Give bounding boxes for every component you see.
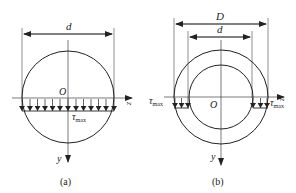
y-axis-label: y (56, 153, 62, 164)
y-axis-label-b: y (210, 151, 216, 162)
diagram-canvas: d O z y τmax (a) D d O z (0, 0, 296, 193)
dim-label-d: d (66, 20, 72, 32)
tau-max-label: τmax (72, 111, 86, 123)
caption-b: (b) (212, 176, 224, 188)
shear-stress-diagram: d O z y τmax (a) D d O z (0, 0, 296, 193)
origin-label: O (59, 86, 66, 97)
z-axis-label-b: z (278, 97, 287, 102)
caption-a: (a) (60, 176, 71, 188)
dim-label-d-inner: d (217, 23, 223, 35)
figure-a-solid-section: d O z y τmax (a) (12, 20, 134, 188)
tau-max-label-left: τmax (149, 95, 163, 107)
dim-label-D: D (215, 10, 224, 22)
stress-arrows-a (22, 99, 114, 111)
origin-label-b: O (210, 99, 217, 110)
figure-b-hollow-section: D d O z y τmax τmax (b) (149, 10, 287, 188)
z-axis-label: z (125, 101, 134, 106)
